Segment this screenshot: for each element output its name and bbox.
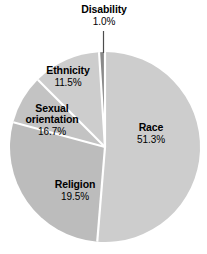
pie-label-disability-value: 1.0%	[52, 16, 156, 27]
pie-label-sexual-orientation: Sexual orientation 16.7%	[8, 103, 96, 137]
pie-label-ethnicity: Ethnicity 11.5%	[26, 65, 110, 88]
pie-label-race-name: Race	[116, 122, 186, 134]
pie-label-race-value: 51.3%	[116, 134, 186, 145]
pie-slice-race[interactable]	[97, 52, 200, 242]
pie-label-sexual-orientation-value: 16.7%	[8, 126, 96, 137]
pie-chart: Disability 1.0% Ethnicity 11.5% Sexual o…	[0, 0, 207, 254]
pie-label-ethnicity-value: 11.5%	[26, 77, 110, 88]
pie-label-disability-name: Disability	[52, 4, 156, 16]
pie-label-religion: Religion 19.5%	[33, 179, 117, 202]
pie-label-race: Race 51.3%	[116, 122, 186, 145]
pie-label-religion-value: 19.5%	[33, 191, 117, 202]
pie-label-disability: Disability 1.0%	[52, 4, 156, 27]
pie-label-ethnicity-name: Ethnicity	[26, 65, 110, 77]
pie-label-sexual-orientation-name-line2: orientation	[8, 114, 96, 125]
pie-label-religion-name: Religion	[33, 179, 117, 191]
